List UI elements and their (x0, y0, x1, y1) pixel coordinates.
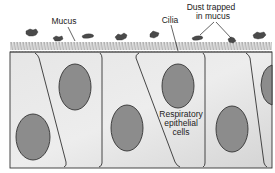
label-cells-line3: cells (172, 127, 189, 137)
nucleus-2 (59, 64, 91, 110)
dust-leader-line-2 (216, 22, 231, 38)
cilia-band (10, 42, 272, 52)
dust-particles (26, 29, 266, 43)
dust-particle (253, 32, 266, 39)
nucleus-3 (111, 105, 143, 151)
label-mucus: Mucus (51, 16, 76, 26)
dust-particle (53, 36, 63, 41)
mucus-leader-line (68, 27, 75, 41)
dust-particle (192, 36, 203, 41)
label-cilia: Cilia (162, 15, 179, 25)
respiratory-epithelium-diagram: Mucus Cilia Dust trapped in mucus Respir… (0, 0, 275, 173)
label-dust-line2: in mucus (196, 11, 230, 21)
dust-particle (26, 29, 38, 36)
dust-leader-line-1 (200, 22, 214, 35)
dust-particle (115, 33, 127, 40)
nucleus-4 (162, 64, 194, 108)
nucleus-1 (16, 114, 50, 160)
nucleus-5 (216, 106, 248, 152)
dust-particle (150, 31, 159, 38)
dust-particle (82, 34, 94, 39)
